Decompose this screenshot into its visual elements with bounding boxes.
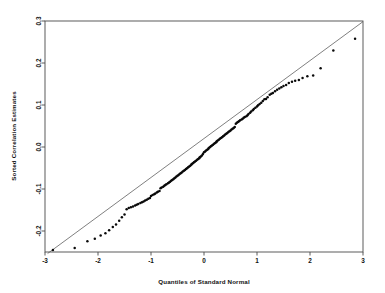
data-point (280, 86, 283, 89)
data-point (52, 249, 55, 252)
data-point (99, 234, 102, 237)
data-point (73, 247, 76, 250)
x-tick-label: 3 (361, 257, 365, 264)
data-point (294, 80, 297, 83)
data-point (276, 88, 279, 91)
y-tick-label: -0.1 (35, 183, 42, 194)
y-tick-label: 0.2 (35, 58, 42, 67)
qq-plot-figure: -3-2-10123 -0.2-0.10.00.10.20.3 Quantile… (0, 0, 385, 293)
data-point (86, 240, 89, 243)
data-point (266, 96, 269, 99)
data-point (272, 92, 275, 95)
data-point (125, 208, 128, 211)
data-point (158, 190, 161, 193)
data-point (285, 84, 288, 87)
y-tick-label: -0.2 (35, 225, 42, 236)
data-point (104, 232, 107, 235)
x-axis-tick-marks (45, 252, 363, 256)
y-tick-label: 0.0 (35, 142, 42, 151)
data-point (291, 80, 294, 83)
qq-plot-canvas: -3-2-10123 -0.2-0.10.00.10.20.3 Quantile… (0, 0, 385, 293)
data-point (121, 216, 124, 219)
x-tick-label: -1 (148, 257, 154, 264)
plot-frame (45, 21, 363, 252)
x-tick-label: -2 (95, 257, 101, 264)
data-point (282, 85, 285, 88)
y-tick-label: 0.3 (35, 16, 42, 25)
qq-reference-line (48, 22, 363, 254)
data-point (278, 87, 281, 90)
data-point (319, 67, 322, 70)
data-point (115, 223, 118, 226)
data-point (108, 229, 111, 232)
data-point (354, 38, 357, 41)
y-axis-tick-labels: -0.2-0.10.00.10.20.3 (35, 16, 42, 236)
y-axis-title: Sorted Correlation Estimates (10, 91, 17, 181)
x-tick-label: 2 (308, 257, 312, 264)
data-point (312, 74, 315, 77)
x-tick-label: -3 (42, 257, 48, 264)
data-point (123, 213, 126, 216)
data-point (118, 219, 121, 222)
x-tick-label: 0 (202, 257, 206, 264)
data-point (332, 49, 335, 52)
x-tick-label: 1 (255, 257, 259, 264)
data-point (301, 77, 304, 80)
reference-line-group (48, 22, 363, 254)
data-point (274, 90, 277, 93)
data-point (112, 226, 115, 229)
data-point (298, 79, 301, 82)
data-point (233, 126, 236, 129)
data-point (94, 238, 97, 241)
y-tick-label: 0.1 (35, 100, 42, 109)
data-point (306, 75, 309, 78)
scatter-points-group (52, 38, 357, 252)
x-axis-title: Quantiles of Standard Normal (158, 278, 250, 285)
y-axis-tick-marks (42, 21, 46, 231)
x-axis-tick-labels: -3-2-10123 (42, 257, 365, 264)
data-point (288, 82, 291, 85)
